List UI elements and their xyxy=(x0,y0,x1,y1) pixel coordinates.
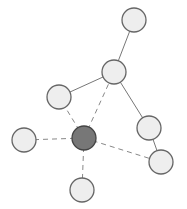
hub-node xyxy=(72,126,96,150)
graph-node-n_far_left xyxy=(12,128,36,152)
graph-node-n_right xyxy=(137,116,161,140)
graph-node-n_upper_left xyxy=(47,85,71,109)
graph-node-n_top xyxy=(122,8,146,32)
graph-node-n_bottom xyxy=(70,178,94,202)
graph-node-n_mid xyxy=(102,60,126,84)
nodes-layer xyxy=(12,8,173,202)
graph-node-n_lower_right xyxy=(149,150,173,174)
edges-layer xyxy=(24,20,161,190)
network-diagram xyxy=(0,0,187,209)
